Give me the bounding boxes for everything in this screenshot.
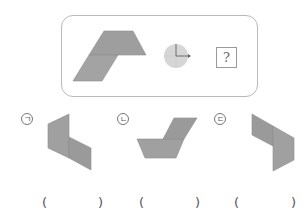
option-c-shape [252,114,294,171]
rotation-indicator-icon [164,44,191,68]
option-c-answer-close[interactable]: ) [291,195,296,210]
option-a-shape [48,114,91,170]
option-c-answer-open[interactable]: ( [234,195,239,210]
option-a-label: ㄱ [21,113,33,125]
option-b-answer-close[interactable]: ) [195,195,200,210]
original-figure [73,31,146,81]
option-c-label: ㄷ [214,113,226,125]
option-b-answer-open[interactable]: ( [139,195,144,210]
option-a-answer-open[interactable]: ( [42,195,47,210]
option-b-shape [137,118,197,158]
figure-canvas [0,0,308,222]
option-b-label: ㄴ [117,113,129,125]
option-a-answer-close[interactable]: ) [98,195,103,210]
parallelogram-piece [73,55,118,81]
unknown-answer-box: ? [216,47,237,68]
trapezoid-piece [89,31,146,55]
